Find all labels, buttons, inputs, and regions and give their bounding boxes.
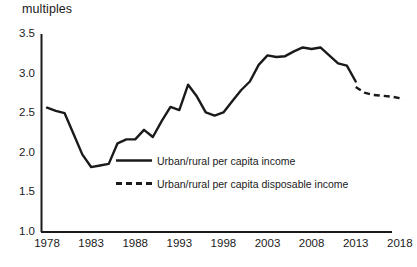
x-tick-label-8: 2018 — [378, 237, 417, 249]
y-tick-label-4: 1.5 — [5, 185, 35, 197]
series-line-urban-rural-per-capita-disposable-income — [356, 87, 403, 116]
series-line-urban-rural-per-capita-income — [47, 47, 356, 167]
y-tick-label-3: 2.0 — [5, 146, 35, 158]
legend-label-urban-rural-per-capita-disposable-income: Urban/rural per capita disposable income — [157, 178, 348, 190]
y-tick-label-1: 3.0 — [5, 67, 35, 79]
x-tick-label-1: 1983 — [69, 237, 113, 249]
x-tick-label-6: 2008 — [290, 237, 334, 249]
x-tick-label-0: 1978 — [25, 237, 69, 249]
x-tick-label-4: 1998 — [201, 237, 245, 249]
x-tick-label-2: 1988 — [113, 237, 157, 249]
x-tick-label-3: 1993 — [157, 237, 201, 249]
y-tick-label-2: 2.5 — [5, 106, 35, 118]
y-tick-label-0: 3.5 — [5, 27, 35, 39]
x-tick-label-7: 2013 — [334, 237, 378, 249]
legend-label-urban-rural-per-capita-income: Urban/rural per capita income — [157, 155, 295, 167]
y-tick-label-5: 1.0 — [5, 225, 35, 237]
x-tick-label-5: 2003 — [246, 237, 290, 249]
